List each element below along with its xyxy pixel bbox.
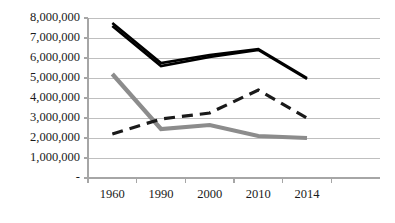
series-lines — [112, 23, 307, 138]
series-line-series-dashed — [112, 90, 307, 134]
x-axis-tick-label: 2014 — [267, 188, 347, 201]
line-chart: -1,000,0002,000,0003,000,0004,000,0005,0… — [0, 0, 395, 223]
series-line-series-black-lower — [112, 26, 307, 79]
x-axis-ticks — [88, 178, 331, 183]
series-line-series-gray — [112, 74, 307, 138]
